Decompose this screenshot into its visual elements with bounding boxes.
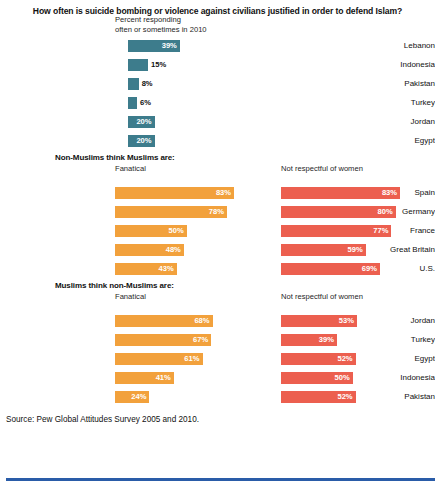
section3-col-right-label: Not respectful of women: [281, 292, 363, 301]
bar: 48%: [115, 244, 184, 256]
chart-row: France50%77%: [0, 224, 435, 243]
row-label: Lebanon: [311, 41, 435, 50]
section2-rows: Spain83%83%Germany78%80%France50%77%Grea…: [0, 186, 435, 281]
bar-value-label: 59%: [347, 244, 362, 256]
chart-row: Indonesia15%: [0, 58, 435, 77]
source-note: Source: Pew Global Attitudes Survey 2005…: [6, 415, 435, 424]
bar: 15%: [128, 59, 148, 71]
section2-column-headers: Fanatical Not respectful of women: [0, 164, 435, 186]
bar-value-label: 61%: [184, 353, 199, 365]
chart-row: Jordan20%: [0, 115, 435, 134]
section3-col-left-label: Fanatical: [115, 292, 146, 301]
chart-row: Indonesia41%50%: [0, 371, 435, 390]
bar-value-label: 52%: [337, 391, 352, 403]
bar: 52%: [281, 353, 356, 365]
chart-row: U.S.43%69%: [0, 262, 435, 281]
section1-subtitle-line1: Percent responding: [115, 15, 207, 25]
section2-heading: Non-Muslims think Muslims are:: [55, 153, 435, 162]
bar-value-label: 50%: [169, 225, 184, 237]
chart-row: Lebanon39%: [0, 39, 435, 58]
bar-value-label: 15%: [151, 59, 166, 71]
bar-value-label: 67%: [193, 334, 208, 346]
bar-value-label: 53%: [339, 315, 354, 327]
section3-rows: Jordan68%53%Turkey67%39%Egypt61%52%Indon…: [0, 314, 435, 409]
row-label: Egypt: [311, 136, 435, 145]
bar-value-label: 41%: [156, 372, 171, 384]
bar-value-label: 83%: [382, 187, 397, 199]
bar: 20%: [128, 135, 155, 147]
bar-value-label: 68%: [194, 315, 209, 327]
bar-value-label: 6%: [140, 97, 151, 109]
bar-value-label: 8%: [142, 78, 153, 90]
bar-value-label: 39%: [162, 40, 177, 52]
bar: 59%: [281, 244, 366, 256]
bar-value-label: 39%: [319, 334, 334, 346]
bar-value-label: 77%: [373, 225, 388, 237]
bar-value-label: 69%: [362, 263, 377, 275]
bar: 39%: [281, 334, 337, 346]
bar: 43%: [115, 263, 177, 275]
section3-column-headers: Fanatical Not respectful of women: [0, 292, 435, 314]
bottom-rule: [6, 478, 435, 481]
row-label: Turkey: [323, 335, 435, 344]
infographic-root: How often is suicide bombing or violence…: [0, 0, 435, 424]
row-label: Turkey: [311, 98, 435, 107]
section1-subtitle-line2: often or sometimes in 2010: [115, 25, 207, 35]
bar: 41%: [115, 372, 174, 384]
section1-column-headers: Percent responding often or sometimes in…: [0, 17, 435, 39]
bar: 77%: [281, 225, 391, 237]
bar: 61%: [115, 353, 203, 365]
bar-value-label: 20%: [136, 116, 151, 128]
chart-row: Pakistan8%: [0, 77, 435, 96]
section-muslims-think: Muslims think non-Muslims are: Fanatical…: [0, 281, 435, 409]
bar: 52%: [281, 391, 356, 403]
bar: 20%: [128, 116, 155, 128]
bar-value-label: 24%: [131, 391, 146, 403]
row-label: Jordan: [311, 117, 435, 126]
bar-value-label: 52%: [337, 353, 352, 365]
bar: 69%: [281, 263, 380, 275]
bar: 83%: [281, 187, 400, 199]
section3-heading: Muslims think non-Muslims are:: [55, 281, 435, 290]
bar-value-label: 83%: [216, 187, 231, 199]
section1-rows: Lebanon39%Indonesia15%Pakistan8%Turkey6%…: [0, 39, 435, 153]
chart-row: Turkey6%: [0, 96, 435, 115]
section1-subtitle: Percent responding often or sometimes in…: [115, 15, 207, 34]
chart-row: Spain83%83%: [0, 186, 435, 205]
section2-col-right-label: Not respectful of women: [281, 164, 363, 173]
bar: 78%: [115, 206, 227, 218]
chart-row: Turkey67%39%: [0, 333, 435, 352]
bar: 8%: [128, 78, 139, 90]
chart-row: Great Britain48%59%: [0, 243, 435, 262]
bar: 83%: [115, 187, 234, 199]
bar-value-label: 50%: [335, 372, 350, 384]
section-non-muslims-think: Non-Muslims think Muslims are: Fanatical…: [0, 153, 435, 281]
bar-value-label: 80%: [378, 206, 393, 218]
bar: 80%: [281, 206, 396, 218]
bar: 24%: [115, 391, 149, 403]
chart-row: Egypt20%: [0, 134, 435, 153]
chart-row: Egypt61%52%: [0, 352, 435, 371]
row-label: Pakistan: [311, 79, 435, 88]
bar: 39%: [128, 40, 180, 52]
section2-col-left-label: Fanatical: [115, 164, 146, 173]
chart-row: Germany78%80%: [0, 205, 435, 224]
bar-value-label: 43%: [159, 263, 174, 275]
chart-row: Pakistan24%52%: [0, 390, 435, 409]
section-suicide-bombing: Percent responding often or sometimes in…: [0, 17, 435, 153]
bar: 68%: [115, 315, 213, 327]
row-label: Indonesia: [311, 60, 435, 69]
bar: 6%: [128, 97, 137, 109]
bar: 50%: [281, 372, 353, 384]
bar-value-label: 48%: [166, 244, 181, 256]
bar: 50%: [115, 225, 187, 237]
page-title: How often is suicide bombing or violence…: [0, 0, 435, 17]
chart-row: Jordan68%53%: [0, 314, 435, 333]
bar: 67%: [115, 334, 211, 346]
bar-value-label: 20%: [136, 135, 151, 147]
bar-value-label: 78%: [209, 206, 224, 218]
bar: 53%: [281, 315, 357, 327]
